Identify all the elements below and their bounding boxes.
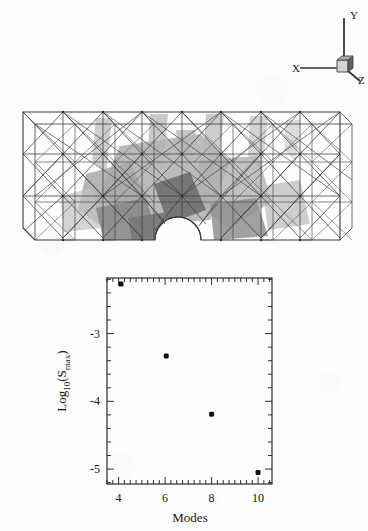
y-axis-tick-labels: -3-4-5	[90, 327, 100, 477]
data-point-marker	[118, 282, 123, 287]
x-tick-label: 4	[116, 491, 122, 505]
y-tick-label: -4	[90, 394, 100, 408]
ylabel-symbol: S	[54, 370, 69, 377]
y-axis-title: Log10(Smax)	[54, 350, 72, 411]
ylabel-close-paren: )	[54, 350, 69, 354]
svg-text:Log10(Smax): Log10(Smax)	[54, 350, 72, 411]
finite-element-truss-mesh	[0, 100, 368, 250]
y-tick-label: -3	[90, 327, 100, 341]
triad-label-z: Z	[358, 74, 365, 84]
x-tick-label: 10	[252, 491, 264, 505]
data-point-marker	[209, 412, 214, 417]
x-axis-title: Modes	[172, 510, 207, 525]
x-tick-label: 8	[209, 491, 215, 505]
plot-frame	[107, 278, 272, 484]
x-axis-tick-labels: 46810	[116, 491, 264, 505]
y-tick-label: -5	[90, 462, 100, 476]
x-tick-label: 6	[162, 491, 168, 505]
ylabel-symbol-subscript: max	[62, 354, 72, 370]
ylabel-base: Log	[54, 390, 69, 411]
triad-label-y: Y	[350, 9, 358, 21]
data-points	[118, 282, 260, 475]
plot-tick-marks	[107, 278, 272, 484]
data-point-marker	[164, 353, 169, 358]
mesh-stress-shading	[60, 114, 310, 242]
page-canvas: Y X Z	[0, 0, 368, 531]
triad-origin-cube	[337, 56, 353, 72]
coordinate-axis-triad: Y X Z	[292, 8, 366, 84]
modal-sensitivity-scatter-plot: 46810 -3-4-5 Modes Log10(Smax)	[40, 262, 320, 528]
triad-label-x: X	[292, 62, 300, 74]
data-point-marker	[256, 470, 261, 475]
cube-front-face	[337, 60, 348, 72]
